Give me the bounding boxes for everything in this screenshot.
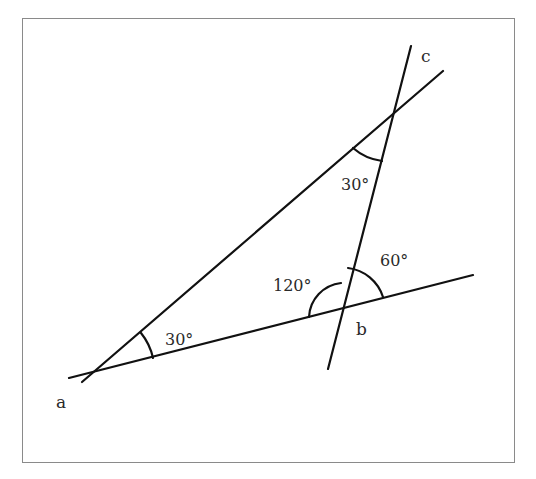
angle-label-a: 30° [165,330,193,349]
line-a-to-upper-right [82,71,443,382]
angle-arc-top [353,148,382,161]
point-label-b: b [356,319,367,339]
angle-label-top: 30° [341,175,369,194]
angle-arc-a [141,333,153,358]
point-label-a: a [56,392,66,412]
angle-label-b-120: 120° [273,276,312,295]
angle-label-b-60: 60° [380,251,408,270]
point-label-c: c [421,46,431,66]
line-transversal-a-b [69,275,473,378]
geometry-diagram: a b c 30° 30° 120° 60° [0,0,536,479]
line-through-b-c [328,46,411,369]
